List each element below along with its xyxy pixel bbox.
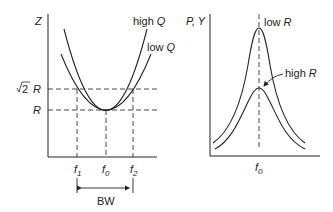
- high-q-label: high Q: [133, 15, 166, 27]
- high-q-curve: [64, 29, 147, 111]
- low-r-label: low R: [264, 16, 292, 28]
- low-r-curve: [213, 28, 305, 143]
- low-q-label: low Q: [147, 41, 176, 53]
- right-f0-tick-label: f0: [255, 161, 263, 176]
- f1-tick-label: f1: [74, 163, 82, 178]
- impedance-plot: Z 2 R R high Q low Q f1 f0 f2: [17, 14, 176, 207]
- power-plot: P, Y low R high R f0: [186, 14, 320, 176]
- r-label: R: [33, 104, 41, 116]
- high-r-curve: [215, 88, 305, 149]
- py-axis-label: P, Y: [186, 15, 206, 27]
- svg-text:high R: high R: [285, 67, 317, 79]
- svg-text:R: R: [33, 83, 41, 95]
- svg-text:low R: low R: [264, 16, 292, 28]
- bw-label: BW: [97, 195, 115, 207]
- resonance-diagram: Z 2 R R high Q low Q f1 f0 f2: [0, 0, 333, 212]
- f2-tick-label: f2: [130, 163, 138, 178]
- sqrt2r-label: 2 R: [17, 82, 41, 95]
- svg-text:2: 2: [22, 83, 28, 95]
- f0-tick-label: f0: [102, 163, 110, 178]
- svg-text:high Q: high Q: [133, 15, 166, 27]
- svg-text:low Q: low Q: [147, 41, 176, 53]
- z-axis-label: Z: [34, 15, 43, 27]
